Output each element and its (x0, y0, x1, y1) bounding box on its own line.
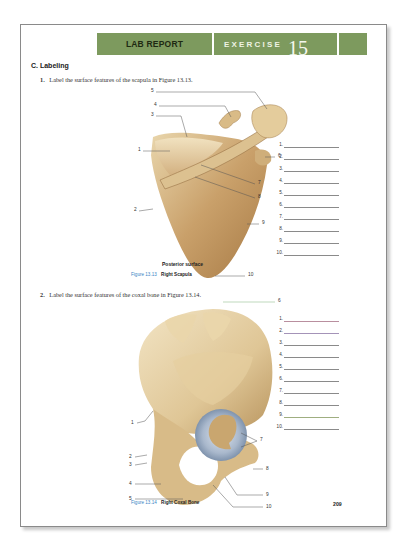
scapula-caption: Figure 13.13 Right Scapula (131, 272, 192, 277)
answer-row[interactable]: 1. (275, 141, 339, 148)
answer-number: 5. (275, 191, 283, 196)
answer-number: 6. (275, 203, 283, 208)
answer-number: 10. (275, 251, 283, 256)
answer-row[interactable]: 9. (275, 237, 339, 244)
callout-6: 6 (278, 299, 281, 304)
answer-number: 5. (275, 365, 283, 370)
figure-number: Figure 13.13 (131, 272, 157, 277)
coxal-bone-illustration (113, 297, 289, 509)
answer-number: 4. (275, 353, 283, 358)
answer-line[interactable] (284, 195, 339, 196)
answer-line[interactable] (284, 345, 339, 346)
answer-row[interactable]: 2. (275, 153, 339, 160)
answer-row[interactable]: 8. (275, 399, 339, 406)
answer-line[interactable] (284, 147, 339, 148)
figure-title: Right Scapula (161, 272, 192, 277)
callout-5: 5 (151, 89, 154, 94)
callout-4: 4 (129, 482, 132, 487)
callout-3: 3 (151, 113, 154, 118)
figure-number: Figure 13.14 (131, 500, 157, 505)
answer-line[interactable] (284, 357, 339, 358)
answer-line[interactable] (284, 417, 339, 418)
answer-number: 9. (275, 239, 283, 244)
answer-line[interactable] (284, 159, 339, 160)
answer-number: 3. (275, 341, 283, 346)
callout-10: 10 (248, 273, 253, 278)
answer-line[interactable] (284, 333, 339, 334)
answer-row[interactable]: 9. (275, 411, 339, 418)
answer-line[interactable] (284, 405, 339, 406)
answer-number: 8. (275, 401, 283, 406)
lab-report-label: LAB REPORT (97, 33, 212, 55)
callout-8: 8 (266, 467, 269, 472)
answer-line[interactable] (284, 171, 339, 172)
question-1: 1. Label the surface features of the sca… (40, 76, 193, 83)
answer-line[interactable] (284, 369, 339, 370)
answer-line[interactable] (284, 393, 339, 394)
answer-row[interactable]: 4. (275, 177, 339, 184)
answer-number: 4. (275, 179, 283, 184)
answer-row[interactable]: 5. (275, 363, 339, 370)
answer-line[interactable] (284, 429, 339, 430)
answer-line[interactable] (284, 207, 339, 208)
answer-number: 8. (275, 227, 283, 232)
answer-number: 3. (275, 167, 283, 172)
header-tail-block (339, 33, 367, 55)
callout-2: 2 (134, 208, 137, 213)
answer-row[interactable]: 4. (275, 351, 339, 358)
answer-row[interactable]: 10. (275, 423, 339, 430)
callout-4: 4 (154, 103, 157, 108)
exercise-header: EXERCISE 15 (214, 33, 337, 55)
answer-number: 1. (275, 143, 283, 148)
answer-row[interactable]: 6. (275, 375, 339, 382)
workbook-page: LAB REPORT EXERCISE 15 C. Labeling 1. La… (20, 24, 387, 527)
answer-row[interactable]: 7. (275, 213, 339, 220)
answer-line[interactable] (284, 255, 339, 256)
callout-9: 9 (266, 493, 269, 498)
answer-row[interactable]: 1. (275, 315, 339, 322)
answer-line[interactable] (284, 321, 339, 322)
exercise-number: 15 (288, 37, 308, 60)
answer-row[interactable]: 6. (275, 201, 339, 208)
answer-row[interactable]: 7. (275, 387, 339, 394)
figure-title: Right Coxal Bone (161, 500, 199, 505)
answer-number: 7. (275, 389, 283, 394)
lab-report-header: LAB REPORT EXERCISE 15 (97, 33, 367, 55)
callout-7: 7 (260, 438, 263, 443)
answer-number: 10. (275, 425, 283, 430)
section-title: C. Labeling (31, 62, 69, 69)
answer-row[interactable]: 3. (275, 165, 339, 172)
callout-1: 1 (131, 421, 134, 426)
callout-8: 8 (258, 195, 261, 200)
callout-2: 2 (129, 455, 132, 460)
coxal-bone-caption: Figure 13.14 Right Coxal Bone (131, 500, 199, 505)
answer-number: 7. (275, 215, 283, 220)
answer-number: 2. (275, 329, 283, 334)
question-number: 1. (40, 76, 45, 83)
callout-7: 7 (258, 181, 261, 186)
answer-row[interactable]: 8. (275, 225, 339, 232)
answer-line[interactable] (284, 231, 339, 232)
question-text: Label the surface features of the scapul… (49, 76, 192, 83)
callout-9: 9 (262, 221, 265, 226)
answer-row[interactable]: 2. (275, 327, 339, 334)
callout-3: 3 (129, 463, 132, 468)
page-number: 209 (333, 501, 342, 507)
answer-number: 9. (275, 413, 283, 418)
exercise-label: EXERCISE (224, 40, 282, 49)
answer-line[interactable] (284, 243, 339, 244)
callout-1: 1 (138, 148, 141, 153)
answer-line[interactable] (284, 381, 339, 382)
coxal-bone-figure: 6 1 2 3 4 5 7 8 9 10 (113, 297, 289, 509)
answer-number: 1. (275, 317, 283, 322)
answer-number: 6. (275, 377, 283, 382)
callout-10: 10 (266, 505, 271, 510)
answer-row[interactable]: 5. (275, 189, 339, 196)
scapula-view-label: Posterior surface (162, 261, 203, 267)
answer-row[interactable]: 10. (275, 249, 339, 256)
answer-number: 2. (275, 155, 283, 160)
answer-line[interactable] (284, 183, 339, 184)
answer-line[interactable] (284, 219, 339, 220)
question-number: 2. (40, 291, 45, 298)
answer-row[interactable]: 3. (275, 339, 339, 346)
